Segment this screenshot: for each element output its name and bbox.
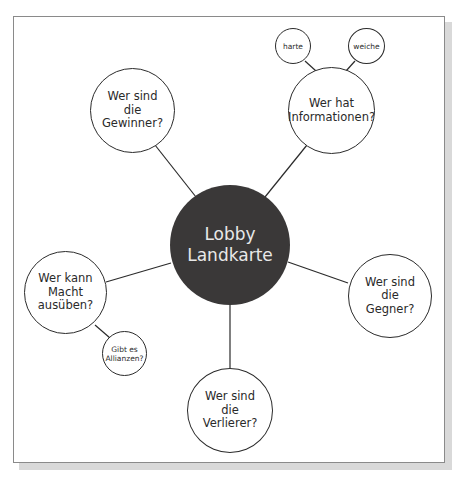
node-macht: Wer kann Macht ausüben? (24, 251, 107, 334)
center-node-label: Lobby Landkarte (187, 224, 273, 266)
node-gewinner-label: Wer sind die Gewinner? (102, 90, 163, 131)
node-weiche: weiche (348, 28, 385, 64)
edge-center-gegner (288, 262, 348, 283)
node-gegner-label: Wer sind die Gegner? (365, 276, 415, 317)
node-gegner: Wer sind die Gegner? (348, 254, 432, 338)
edge-center-gewinner (155, 145, 196, 197)
edge-center-informationen (265, 145, 307, 197)
node-informationen: Wer hat Informationen? (288, 67, 375, 154)
node-harte: harte (275, 28, 311, 64)
edge-macht-allianzen (95, 325, 110, 338)
node-informationen-label: Wer hat Informationen? (288, 97, 375, 124)
center-node-lobby-landkarte: Lobby Landkarte (170, 185, 290, 305)
node-gewinner: Wer sind die Gewinner? (90, 68, 175, 153)
edge-center-macht (106, 263, 171, 282)
node-macht-label: Wer kann Macht ausüben? (38, 272, 93, 313)
node-verlierer-label: Wer sind die Verlierer? (203, 390, 258, 431)
node-harte-label: harte (283, 42, 303, 51)
node-allianzen: Gibt es Allianzen? (102, 331, 147, 376)
node-allianzen-label: Gibt es Allianzen? (105, 345, 143, 363)
node-verlierer: Wer sind die Verlierer? (187, 368, 273, 453)
node-weiche-label: weiche (353, 42, 379, 51)
